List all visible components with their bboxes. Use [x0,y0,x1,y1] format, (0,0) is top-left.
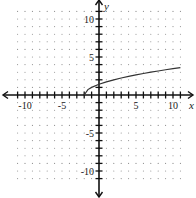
grid-dot [106,26,107,27]
grid-dot [24,18,25,19]
grid-dot [165,64,166,65]
grid-dot [143,132,144,133]
grid-dot [128,148,129,149]
grid-dot [84,117,85,118]
grid-dot [69,163,70,164]
grid-dot [180,87,181,88]
grid-dot [106,117,107,118]
grid-dot [54,140,55,141]
grid-dot [143,140,144,141]
grid-dot [91,148,92,149]
grid-dot [180,170,181,171]
grid-dot [54,155,55,156]
grid-dot [158,26,159,27]
grid-dot [91,117,92,118]
grid-dot [180,132,181,133]
grid-dot [76,26,77,27]
grid-dot [180,148,181,149]
grid-dot [158,102,159,103]
grid-dot [32,117,33,118]
grid-dot [76,18,77,19]
grid-dot [121,178,122,179]
grid-dot [69,72,70,73]
grid-dot [32,132,33,133]
grid-dot [113,26,114,27]
grid-dot [121,87,122,88]
grid-dot [172,34,173,35]
grid-dot [121,110,122,111]
grid-dot [32,87,33,88]
grid-dot [39,87,40,88]
grid-dot [39,18,40,19]
grid-dot [128,41,129,42]
grid-dot [135,87,136,88]
grid-dot [143,117,144,118]
grid-dot [84,132,85,133]
grid-dot [47,163,48,164]
grid-dot [69,49,70,50]
grid-dot [172,170,173,171]
grid-dot [32,72,33,73]
grid-dot [24,34,25,35]
grid-dot [135,163,136,164]
grid-dot [165,148,166,149]
grid-dot [165,110,166,111]
grid-dot [165,132,166,133]
grid-dot [39,148,40,149]
grid-dot [54,26,55,27]
grid-dot [150,140,151,141]
grid-dot [135,49,136,50]
grid-dot [47,34,48,35]
grid-dot [54,34,55,35]
grid-dot [121,41,122,42]
grid-dot [150,110,151,111]
grid-dot [106,87,107,88]
grid-dot [128,87,129,88]
grid-dot [180,155,181,156]
grid-dot [158,178,159,179]
grid-dot [158,79,159,80]
grid-dot [54,64,55,65]
grid-dot [180,26,181,27]
grid-dot [150,18,151,19]
grid-dot [180,163,181,164]
grid-dot [143,64,144,65]
grid-dot [91,125,92,126]
grid-dot [113,132,114,133]
grid-dot [128,11,129,12]
grid-dot [61,18,62,19]
grid-dot [76,110,77,111]
grid-dot [17,41,18,42]
grid-dot [106,148,107,149]
grid-dot [135,11,136,12]
grid-dot [143,148,144,149]
grid-dot [150,56,151,57]
grid-dot [143,49,144,50]
grid-dot [158,117,159,118]
grid-dot [54,117,55,118]
grid-dot [39,56,40,57]
grid-dot [113,117,114,118]
grid-dot [69,26,70,27]
grid-dot [165,41,166,42]
grid-dot [32,56,33,57]
grid-dot [158,125,159,126]
grid-dot [69,148,70,149]
grid-dot [180,72,181,73]
grid-dot [143,87,144,88]
grid-dot [47,102,48,103]
grid-dot [24,56,25,57]
grid-dot [150,125,151,126]
grid-dot [121,18,122,19]
grid-dot [172,26,173,27]
grid-dot [47,56,48,57]
grid-dot [128,34,129,35]
grid-dot [158,11,159,12]
grid-dot [47,79,48,80]
grid-dot [76,155,77,156]
grid-dot [47,117,48,118]
grid-dot [39,79,40,80]
grid-dot [128,64,129,65]
grid-dot [24,170,25,171]
grid-dot [180,56,181,57]
